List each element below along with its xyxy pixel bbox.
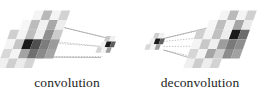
figure-root: convolution deconvolution bbox=[0, 0, 267, 97]
caption-deconvolution: deconvolution bbox=[133, 76, 267, 90]
caption-convolution: convolution bbox=[0, 76, 134, 90]
